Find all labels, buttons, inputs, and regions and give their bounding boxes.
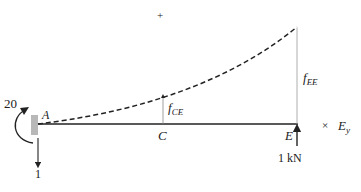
moment-arrowhead	[20, 107, 29, 115]
moment-arc	[15, 110, 33, 143]
f-ce-label: fCE	[168, 101, 183, 117]
point-a-label: A	[42, 109, 49, 121]
fixed-support	[31, 115, 38, 135]
moment-value-label: 20	[4, 97, 17, 110]
ey-label: Ey	[338, 119, 350, 135]
ey-main: E	[338, 118, 346, 133]
plus-marker: +	[157, 10, 163, 21]
ey-sub: y	[346, 125, 350, 135]
beam-diagram	[0, 0, 361, 192]
f-ee-label: fEE	[303, 71, 318, 87]
f-ce-sub: CE	[172, 107, 184, 117]
times-marker: ×	[322, 120, 328, 131]
load-label: 1 kN	[278, 152, 302, 164]
reaction-value-label: 1	[35, 168, 41, 180]
point-e-label: E	[285, 129, 293, 142]
point-c-label: C	[158, 129, 167, 142]
f-ee-sub: EE	[307, 77, 318, 87]
